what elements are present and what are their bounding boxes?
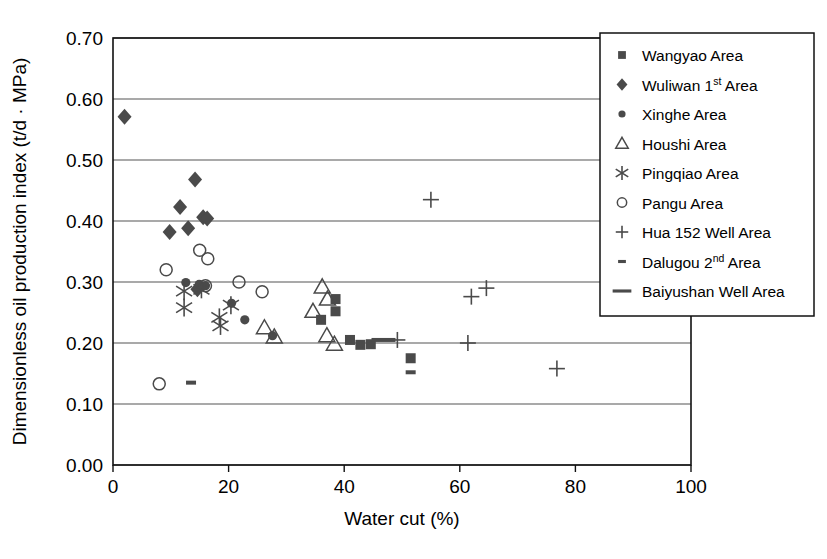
legend-label-3: Houshi Area: [642, 136, 727, 153]
xtick-label-80: 80: [565, 476, 586, 497]
y-axis-label: Dimensionless oil production index (t/d …: [9, 58, 30, 446]
xtick-label-20: 20: [218, 476, 239, 497]
data-point-1-4: [181, 220, 195, 236]
data-point-0-4: [355, 340, 365, 350]
data-point-5-0: [160, 264, 172, 276]
data-point-5-2: [202, 253, 214, 265]
data-point-6-0: [423, 192, 439, 208]
xtick-label-100: 100: [675, 476, 707, 497]
chart-svg: 0204060801000.000.100.200.300.400.500.60…: [0, 0, 827, 559]
legend-marker-8: [613, 289, 632, 292]
data-point-0-1: [331, 306, 341, 316]
data-point-3-0: [256, 320, 272, 334]
legend-label-6: Hua 152 Well Area: [642, 224, 771, 241]
data-point-0-6: [406, 353, 416, 363]
ytick-label-0.10: 0.10: [66, 394, 103, 415]
ytick-label-0.40: 0.40: [66, 211, 103, 232]
ytick-label-0.70: 0.70: [66, 28, 103, 49]
legend-label-1: Wuliwan 1st Area: [642, 75, 758, 94]
ytick-label-0.50: 0.50: [66, 150, 103, 171]
ytick-label-0.30: 0.30: [66, 272, 103, 293]
data-point-5-5: [256, 286, 268, 298]
data-point-4-1: [176, 299, 192, 317]
data-point-4-5: [223, 296, 239, 314]
scatter-chart-figure: 0204060801000.000.100.200.300.400.500.60…: [0, 0, 827, 559]
ytick-label-0.60: 0.60: [66, 89, 103, 110]
data-point-2-3: [240, 315, 249, 324]
data-point-0-3: [345, 335, 355, 345]
legend-marker-7: [618, 260, 626, 263]
data-point-6-4: [549, 361, 565, 377]
xtick-label-0: 0: [108, 476, 119, 497]
data-point-7-1: [406, 370, 416, 374]
data-point-1-0: [118, 109, 132, 125]
data-point-6-3: [460, 335, 476, 351]
data-point-2-0: [181, 278, 190, 287]
data-point-5-6: [153, 378, 165, 390]
legend-label-0: Wangyao Area: [642, 47, 743, 64]
x-axis-label: Water cut (%): [344, 508, 459, 529]
legend-label-8: Baiyushan Well Area: [642, 283, 785, 300]
data-point-1-3: [188, 172, 202, 188]
data-point-6-1: [463, 289, 479, 305]
xtick-label-40: 40: [334, 476, 355, 497]
xtick-label-60: 60: [449, 476, 470, 497]
data-point-7-0: [186, 381, 196, 385]
legend-label-4: Pingqiao Area: [642, 165, 739, 182]
legend-label-2: Xinghe Area: [642, 106, 727, 123]
ytick-label-0.00: 0.00: [66, 455, 103, 476]
ytick-label-0.20: 0.20: [66, 333, 103, 354]
data-point-1-2: [173, 199, 187, 215]
data-point-1-1: [163, 224, 177, 240]
legend-marker-0: [618, 51, 626, 59]
legend-label-7: Dalugou 2nd Area: [642, 252, 761, 271]
data-point-8-0: [372, 338, 396, 342]
legend-marker-2: [618, 110, 625, 117]
legend-label-5: Pangu Area: [642, 195, 723, 212]
